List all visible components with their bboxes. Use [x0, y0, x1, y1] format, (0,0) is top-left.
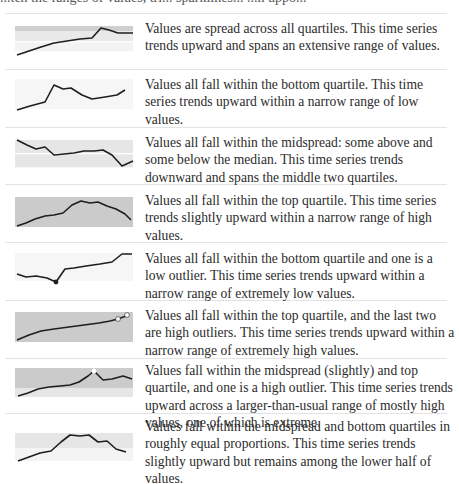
- divider: [5, 69, 447, 70]
- row-description: Values all fall within the top quartile.…: [145, 192, 455, 244]
- row-description: Values all fall within the bottom quarti…: [145, 250, 455, 302]
- row-description: Values all fall within the bottom quarti…: [145, 76, 455, 128]
- row-description: Values are spread across all quartiles. …: [145, 20, 455, 55]
- row-description: Values fall within the midspread and bot…: [145, 418, 455, 484]
- cropped-header-text: ...tch the ranges of values, tri... spar…: [0, 0, 459, 5]
- sparkline-6: [14, 309, 134, 345]
- sparkline-4: [14, 195, 134, 231]
- sparkline-3: [14, 137, 134, 173]
- divider: [5, 13, 447, 14]
- sparkline-1: [14, 22, 134, 58]
- sparkline-7: [14, 364, 134, 404]
- row-description: Values all fall within the midspread: so…: [145, 134, 455, 186]
- sparkline-8: [14, 428, 134, 468]
- sparkline-2: [14, 77, 134, 113]
- row-description: Values all fall within the top quartile,…: [145, 307, 455, 359]
- sparkline-5: [14, 249, 134, 289]
